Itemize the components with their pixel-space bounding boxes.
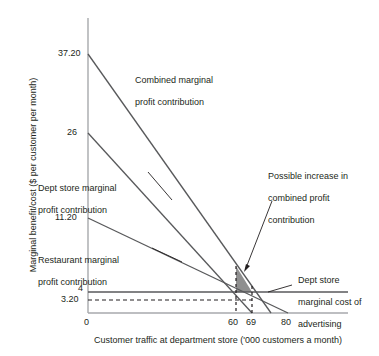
- y-tick-label-3720: 37.20: [58, 48, 81, 58]
- leader-line-dept-store-marginal: [148, 172, 172, 200]
- x-tick-label-69: 69: [246, 317, 256, 327]
- annotation-combined-marginal-line1: Combined marginal: [135, 75, 213, 85]
- annotation-restaurant-marginal: Restaurant marginal profit contribution: [28, 244, 119, 299]
- annotation-dept-store-cost-line2: marginal cost of: [298, 297, 362, 307]
- annotation-possible-increase-line3: contribution: [268, 215, 315, 225]
- annotation-dept-store-marginal-line1: Dept store marginal: [38, 183, 117, 193]
- annotation-combined-marginal: Combined marginal profit contribution: [125, 64, 213, 119]
- annotation-dept-store-cost: Dept store marginal cost of advertising: [288, 264, 362, 341]
- annotation-combined-marginal-line2: profit contribution: [135, 97, 204, 107]
- annotation-restaurant-marginal-line2: profit contribution: [38, 277, 107, 287]
- x-tick-label-0: 0: [84, 317, 89, 327]
- arrowhead-possible-increase: [244, 264, 250, 272]
- annotation-possible-increase: Possible increase in combined profit con…: [258, 160, 348, 237]
- annotation-possible-increase-line1: Possible increase in: [268, 171, 348, 181]
- annotation-dept-store-marginal: Dept store marginal profit contribution: [28, 172, 117, 227]
- annotation-dept-store-cost-line3: advertising: [298, 319, 342, 329]
- shaded-region-possible-increase: [236, 266, 252, 292]
- annotation-dept-store-cost-line1: Dept store: [298, 275, 340, 285]
- annotation-restaurant-marginal-line1: Restaurant marginal: [38, 255, 119, 265]
- chart-figure: Marginal benefit/cost ($ per customer pe…: [0, 0, 379, 356]
- leader-line-restaurant-marginal: [152, 248, 182, 262]
- annotation-possible-increase-line2: combined profit: [268, 193, 330, 203]
- annotation-dept-store-marginal-line2: profit contribution: [38, 205, 107, 215]
- y-tick-label-26: 26: [67, 127, 77, 137]
- x-tick-label-60: 60: [228, 317, 238, 327]
